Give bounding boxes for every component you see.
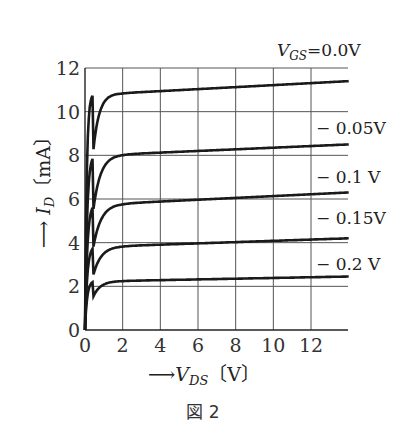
series-label: − 0.15V [316, 208, 386, 228]
x-axis-title: ⟶VDS〔V〕 [148, 363, 260, 388]
x-tick-label: 6 [192, 334, 204, 356]
series-label: VGS=0.0V [277, 40, 361, 63]
curves [85, 81, 349, 330]
curve--0-1-v [85, 193, 349, 331]
x-tick-label: 4 [154, 334, 166, 356]
y-axis-title: ⟶ ID〔mA〕 [32, 127, 57, 248]
axis-titles: ⟶ ID〔mA〕⟶VDS〔V〕 [32, 127, 260, 388]
x-axis-unit: 〔V〕 [208, 363, 260, 385]
curve--0-15v [85, 238, 349, 330]
tick-labels: 024681012024681012 [56, 57, 323, 356]
y-axis-unit: 〔mA〕 [32, 127, 54, 197]
series-label: − 0.2 V [316, 254, 381, 274]
x-tick-label: 8 [230, 334, 242, 356]
figure-caption: 図 2 [0, 398, 406, 423]
y-tick-label: 2 [68, 275, 80, 297]
series-label: − 0.1 V [316, 167, 381, 187]
y-tick-label: 8 [68, 144, 80, 166]
vgs-subscript: GS [289, 49, 307, 63]
curve--0-2-v [85, 277, 349, 331]
x-tick-label: 2 [117, 334, 129, 356]
y-tick-label: 6 [68, 188, 80, 210]
y-tick-label: 4 [68, 232, 80, 254]
y-tick-label: 10 [56, 101, 80, 123]
x-tick-label: 10 [261, 334, 285, 356]
curve-v-gs-0-0v [85, 81, 349, 330]
y-axis-arrow: ⟶ [32, 215, 54, 248]
vgs-value: =0.0V [307, 40, 361, 60]
iv-characteristic-chart: 024681012024681012 VGS=0.0V− 0.05V− 0.1 … [0, 0, 406, 390]
y-axis-sub: D [42, 196, 57, 208]
y-tick-label: 12 [56, 57, 80, 79]
x-axis-arrow: ⟶ [148, 363, 175, 385]
x-tick-label: 12 [299, 334, 323, 356]
series-label: − 0.05V [316, 118, 386, 138]
x-tick-label: 0 [79, 334, 91, 356]
curve--0-05v [85, 144, 349, 330]
x-axis-sub: DS [188, 373, 208, 388]
